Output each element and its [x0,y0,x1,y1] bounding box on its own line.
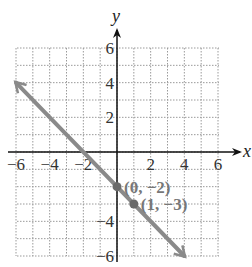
point-label: (0, −2) [124,178,171,197]
x-tick-label: −6 [7,155,25,174]
x-tick-label: 2 [146,155,155,174]
x-axis-label: x [242,141,251,161]
data-point [113,182,122,191]
x-tick-label: −4 [41,155,60,174]
y-axis-label: y [110,6,120,26]
y-tick-label: 6 [106,39,115,58]
x-tick-label: 6 [214,155,223,174]
y-tick-label: 4 [106,74,115,93]
y-tick-label: −6 [96,247,114,266]
point-label: (1, −3) [141,195,188,214]
data-point [129,200,138,209]
graph-svg: xy−6−4−2246642−4−6(0, −2)(1, −3) [0,0,252,267]
coordinate-plane: xy−6−4−2246642−4−6(0, −2)(1, −3) [0,0,252,267]
x-tick-label: 4 [180,155,189,174]
y-tick-label: −4 [96,212,115,231]
y-tick-label: 2 [106,108,115,127]
